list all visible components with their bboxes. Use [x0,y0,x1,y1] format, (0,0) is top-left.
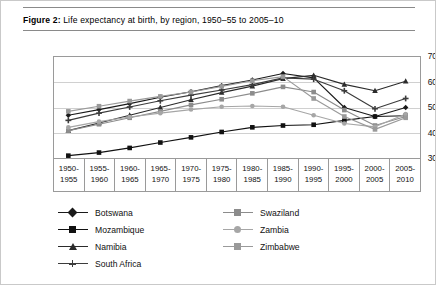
figure-caption: Figure 2: Life expectancy at birth, by r… [23,15,415,25]
x-axis-cell-4: 1970-1975 [176,159,207,191]
x-axis-cell-end: 1995 [305,175,322,186]
data-point [127,146,132,151]
x-axis-cell-start: 1955- [89,164,109,175]
data-point [250,78,255,83]
data-point [219,104,224,109]
legend-item-mozambique[interactable]: Mozambique [58,221,223,238]
x-axis-cell-end: 1980 [213,175,230,186]
data-point [65,117,71,123]
legend-swatch-square-icon [223,207,253,219]
legend-label: South Africa [95,259,141,269]
series-swaziland [66,85,408,133]
data-point [219,84,224,89]
data-point [158,94,163,99]
x-axis-cell-start: 2005- [395,164,415,175]
data-point [311,96,316,101]
legend-swatch-triangle-icon [58,241,88,253]
x-axis-cell-end: 1990 [274,175,291,186]
legend-label: Zimbabwe [260,242,300,252]
legend-item-namibia[interactable]: Namibia [58,238,223,255]
data-point [250,91,255,96]
legend-label: Mozambique [95,225,144,235]
legend-label: Namibia [95,242,127,252]
x-axis-cell-start: 1965- [151,164,171,175]
legend-swatch-circle-icon [223,224,253,236]
x-axis-cell-end: 1975 [182,175,199,186]
series-botswana [66,71,409,119]
x-axis-cell-end: 1955 [60,175,77,186]
x-axis-cell-3: 1965-1970 [146,159,177,191]
legend-column-left: BotswanaMozambiqueNamibiaSouth Africa [58,204,223,272]
data-point [127,104,133,110]
data-point [342,114,347,119]
figure-caption-text: Life expectancy at birth, by region, 195… [61,15,284,25]
data-point [311,113,316,118]
x-axis-cell-start: 1950- [59,164,79,175]
data-point [97,104,102,109]
data-point [127,115,132,120]
x-axis-cell-11: 2005-2010 [390,159,420,191]
chart-series-layer [53,56,421,159]
x-axis-cell-8: 1990-1995 [299,159,330,191]
x-axis-cell-start: 1980- [242,164,262,175]
x-axis-cell-end: 2010 [396,175,413,186]
x-axis-cell-start: 1960- [120,164,140,175]
data-point [250,125,255,130]
x-axis-cell-0: 1950-1955 [54,159,85,191]
figure-container: Figure 2: Life expectancy at birth, by r… [0,0,436,285]
legend-swatch-x-icon [58,258,88,270]
series-line [68,116,405,156]
data-point [66,153,71,158]
legend-label: Botswana [95,208,133,218]
x-axis-cell-start: 1990- [303,164,323,175]
caption-rule-top [23,7,415,8]
data-point [189,103,194,108]
data-point [157,98,163,104]
legend-item-south-africa[interactable]: South Africa [58,255,223,272]
data-point [281,104,286,109]
data-point [372,106,378,112]
legend-swatch-square-icon [58,224,88,236]
series-line [68,77,405,130]
legend-item-zambia[interactable]: Zambia [223,221,388,238]
x-axis-cell-start: 1995- [334,164,354,175]
figure-number: Figure 2: [23,15,61,25]
data-point [403,78,409,83]
caption-rule-bottom [23,30,415,31]
data-point [403,116,408,121]
data-point [341,88,347,94]
x-axis-cell-start: 2000- [365,164,385,175]
data-point [96,110,102,116]
data-point [189,135,194,140]
x-axis-cell-10: 2000-2005 [360,159,391,191]
y-axis-title: Years [0,75,2,96]
x-axis-cell-end: 2005 [366,175,383,186]
data-point [219,130,224,135]
x-axis-cell-end: 1985 [244,175,261,186]
x-axis-cell-2: 1960-1965 [115,159,146,191]
legend-column-right: SwazilandZambiaZimbabwe [223,204,388,272]
x-axis-cell-end: 1965 [121,175,138,186]
data-point [127,99,132,104]
data-point [281,74,286,79]
legend-item-swaziland[interactable]: Swaziland [223,204,388,221]
legend-item-botswana[interactable]: Botswana [58,204,223,221]
legend-item-zimbabwe[interactable]: Zimbabwe [223,238,388,255]
data-point [403,105,408,110]
data-point [189,90,194,95]
data-point [97,150,102,155]
data-point [189,107,194,112]
data-point [342,108,347,113]
data-point [250,104,255,109]
series-line [68,74,405,117]
x-axis-cell-start: 1975- [212,164,232,175]
x-axis-cell-6: 1980-1985 [237,159,268,191]
data-point [403,96,409,102]
x-axis-cell-5: 1975-1980 [207,159,238,191]
legend-swatch-diamond-icon [58,207,88,219]
data-point [66,125,71,130]
x-axis-cell-1: 1955-1960 [85,159,116,191]
data-point [281,123,286,128]
legend-swatch-square-icon [223,241,253,253]
x-axis-cell-end: 1960 [91,175,108,186]
